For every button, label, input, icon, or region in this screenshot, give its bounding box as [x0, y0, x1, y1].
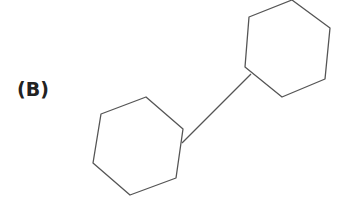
molecule-diagram [0, 0, 347, 210]
ring-left [93, 97, 183, 195]
ring-right [245, 0, 330, 97]
connecting-bond [182, 74, 251, 143]
